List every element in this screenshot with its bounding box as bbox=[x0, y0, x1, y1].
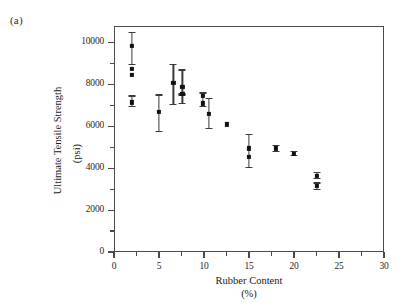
x-tick-minor bbox=[226, 252, 227, 256]
y-tick-minor bbox=[110, 147, 114, 148]
y-tick-label: 0 bbox=[99, 246, 104, 256]
figure-panel-a: (a) 0200040006000800010000051015202530 U… bbox=[0, 0, 410, 307]
x-tick-major bbox=[338, 252, 339, 258]
x-tick-minor bbox=[136, 252, 137, 256]
x-tick-minor bbox=[181, 252, 182, 256]
y-tick-minor bbox=[110, 63, 114, 64]
x-tick-label: 5 bbox=[144, 261, 174, 271]
x-tick-label: 15 bbox=[234, 261, 264, 271]
x-axis-title: Rubber Content (%) bbox=[114, 275, 384, 300]
y-tick-major bbox=[108, 84, 114, 85]
x-tick-major bbox=[113, 252, 114, 258]
x-tick-minor bbox=[316, 252, 317, 256]
y-tick-minor bbox=[110, 230, 114, 231]
x-tick-major bbox=[248, 252, 249, 258]
x-tick-label: 10 bbox=[189, 261, 219, 271]
y-axis-unit-text: (psi) bbox=[71, 74, 82, 234]
x-tick-major bbox=[383, 252, 384, 258]
x-tick-major bbox=[158, 252, 159, 258]
y-tick-major bbox=[108, 168, 114, 169]
x-tick-major bbox=[203, 252, 204, 258]
y-axis-title: Ultimate Tensile Strength (psi) bbox=[0, 0, 100, 252]
y-tick-major bbox=[108, 42, 114, 43]
x-tick-label: 20 bbox=[279, 261, 309, 271]
x-tick-label: 30 bbox=[369, 261, 399, 271]
x-tick-minor bbox=[361, 252, 362, 256]
y-tick-major bbox=[108, 126, 114, 127]
x-axis-title-text: Rubber Content bbox=[216, 275, 283, 286]
x-tick-label: 25 bbox=[324, 261, 354, 271]
plot-frame bbox=[114, 26, 384, 252]
x-tick-minor bbox=[271, 252, 272, 256]
y-tick-major bbox=[108, 210, 114, 211]
y-axis-title-text: Ultimate Tensile Strength bbox=[52, 61, 63, 221]
x-axis-unit-text: (%) bbox=[114, 288, 384, 301]
y-tick-minor bbox=[110, 105, 114, 106]
x-tick-major bbox=[293, 252, 294, 258]
y-tick-minor bbox=[110, 189, 114, 190]
x-tick-label: 0 bbox=[99, 261, 129, 271]
